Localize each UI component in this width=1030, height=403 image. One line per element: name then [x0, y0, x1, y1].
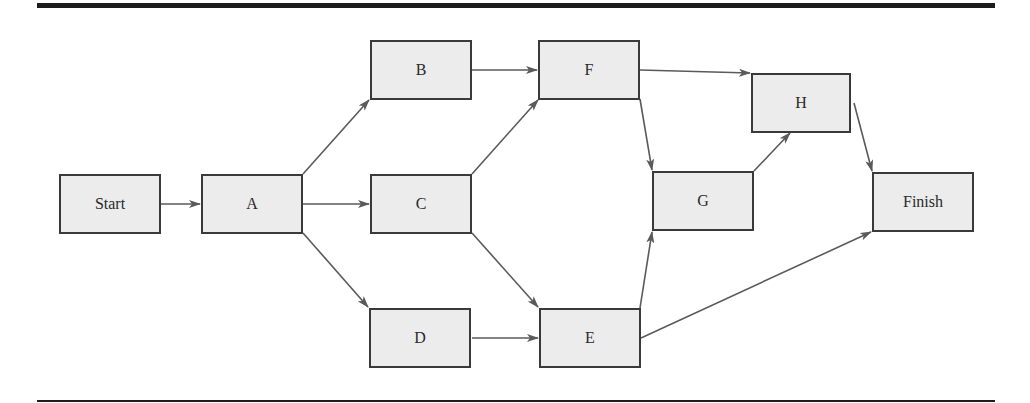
- edge-g-h: [754, 133, 790, 171]
- node-a: A: [201, 174, 303, 234]
- edge-e-finish: [641, 232, 871, 338]
- edge-e-g: [640, 232, 652, 308]
- bottom-rule: [37, 400, 995, 402]
- edge-c-e: [472, 233, 538, 307]
- node-b: B: [370, 40, 472, 100]
- edge-a-d: [303, 233, 368, 307]
- edge-h-finish: [854, 103, 872, 171]
- node-g: G: [652, 171, 754, 231]
- node-c: C: [370, 174, 472, 234]
- node-h: H: [751, 73, 851, 133]
- edge-f-g: [640, 99, 652, 170]
- edge-c-f: [472, 100, 538, 174]
- edge-f-h: [640, 70, 750, 73]
- node-d: D: [369, 308, 471, 368]
- node-f: F: [538, 40, 640, 100]
- node-start: Start: [59, 174, 161, 234]
- node-e: E: [539, 308, 641, 368]
- edge-a-b: [303, 100, 369, 174]
- node-finish: Finish: [872, 172, 974, 232]
